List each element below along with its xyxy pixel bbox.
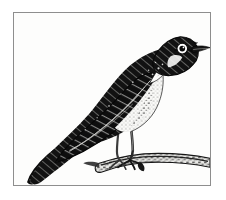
eye-highlight (183, 47, 185, 49)
illustration-root: perched songbird wood-engraving halftone (0, 0, 226, 200)
illustration-frame: perched songbird wood-engraving halftone (13, 12, 211, 186)
eye-pupil (179, 46, 185, 52)
eye (177, 43, 188, 54)
bird-engraving (14, 13, 210, 185)
